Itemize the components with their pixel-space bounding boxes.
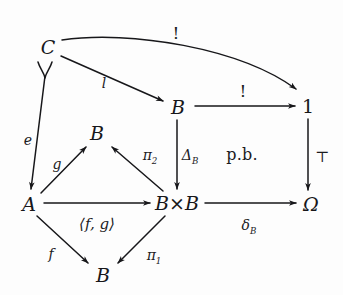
node-B-bottom: B bbox=[96, 266, 110, 285]
label-pi1-glyph: π bbox=[147, 247, 156, 263]
label-B-top-to-BxB: ΔB bbox=[182, 148, 199, 165]
arrow-C-to-1 bbox=[62, 37, 296, 89]
node-terminal-object: 1 bbox=[302, 97, 314, 116]
arrow-A-to-B-mid bbox=[41, 147, 86, 193]
label-A-to-B-bottom: f bbox=[48, 247, 53, 261]
label-delta-lower-subscript: B bbox=[250, 226, 256, 236]
label-A-to-B-mid: g bbox=[53, 157, 62, 171]
node-C: C bbox=[41, 38, 56, 57]
label-BxB-to-B-mid: π2 bbox=[143, 148, 158, 165]
label-C-to-B-top: l bbox=[102, 76, 106, 90]
label-C-to-A: e bbox=[24, 133, 32, 147]
node-A: A bbox=[22, 195, 36, 214]
node-subobject-classifier: Ω bbox=[303, 195, 319, 214]
label-1-to-Omega: ⊤ bbox=[315, 150, 329, 165]
label-pi2-subscript: 2 bbox=[152, 156, 158, 166]
label-pi1-subscript: 1 bbox=[156, 256, 162, 266]
label-C-to-1: ! bbox=[173, 25, 180, 42]
label-B-top-to-1: ! bbox=[240, 83, 247, 100]
label-pi2-glyph: π bbox=[143, 147, 152, 163]
node-B-top: B bbox=[171, 98, 185, 117]
label-delta-glyph: Δ bbox=[182, 147, 192, 163]
commutative-diagram: C B 1 B A B×B Ω B ! l e ! ΔB ⊤ g π2 ⟨f, … bbox=[0, 0, 343, 295]
label-A-to-BxB: ⟨f, g⟩ bbox=[79, 217, 115, 232]
label-delta-subscript: B bbox=[192, 156, 198, 166]
arrow-C-to-A bbox=[31, 76, 45, 189]
node-B-middle: B bbox=[90, 124, 104, 143]
label-BxB-to-B-bottom: π1 bbox=[147, 248, 162, 265]
arrow-C-to-B-top bbox=[61, 56, 163, 101]
pullback-marker: p.b. bbox=[226, 147, 257, 163]
label-BxB-to-Omega: δB bbox=[242, 218, 257, 235]
node-B-times-B: B×B bbox=[155, 194, 199, 213]
